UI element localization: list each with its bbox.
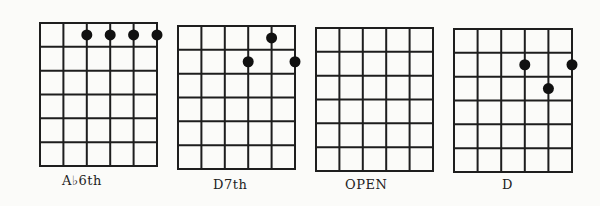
chord-diagram-ab6th [34, 21, 151, 164]
fretboard-grid [172, 24, 301, 171]
finger-dot [243, 56, 254, 67]
chord-diagram-d [448, 27, 566, 170]
finger-dot [152, 29, 163, 40]
finger-dot [81, 29, 92, 40]
finger-dot [266, 32, 277, 43]
finger-dot [567, 59, 578, 70]
fretboard-grid [34, 21, 163, 168]
chord-label-d7th: D7th [213, 177, 247, 192]
chord-diagram-open [310, 26, 427, 169]
chord-label-ab6th: A♭6th [62, 173, 102, 188]
finger-dot [543, 83, 554, 94]
finger-dot [290, 56, 301, 67]
finger-dot [105, 29, 116, 40]
fretboard-grid [448, 27, 578, 174]
chord-label-d: D [502, 177, 513, 192]
fretboard-grid [310, 26, 439, 173]
chord-diagram-d7th [172, 24, 289, 167]
finger-dot [519, 59, 530, 70]
chord-label-open: OPEN [345, 177, 387, 192]
finger-dot [128, 29, 139, 40]
